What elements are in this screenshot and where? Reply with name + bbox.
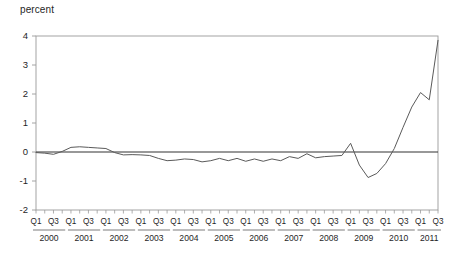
data-series-line (36, 40, 438, 177)
quarter-tick-label: Q3 (118, 217, 129, 226)
quarter-tick-label: Q1 (415, 217, 426, 226)
y-tick-label: 1 (23, 117, 28, 128)
quarter-tick-label: Q3 (153, 217, 164, 226)
year-label: 2011 (420, 233, 439, 243)
y-tick-label: -1 (20, 175, 28, 186)
quarter-tick-label: Q3 (433, 217, 444, 226)
plot-frame (36, 36, 438, 210)
quarter-tick-label: Q3 (48, 217, 59, 226)
quarter-tick-label: Q3 (188, 217, 199, 226)
year-label: 2003 (144, 233, 163, 243)
year-label: 2008 (319, 233, 338, 243)
year-label: 2002 (109, 233, 128, 243)
y-tick-label: 2 (23, 88, 28, 99)
quarter-tick-label: Q3 (258, 217, 269, 226)
line-chart-svg: 43210-1-2 Q1Q3Q1Q3Q1Q3Q1Q3Q1Q3Q1Q3Q1Q3Q1… (0, 0, 449, 271)
year-label: 2007 (284, 233, 303, 243)
y-axis-ticks: 43210-1-2 (20, 30, 36, 215)
quarter-tick-label: Q1 (170, 217, 181, 226)
y-tick-label: 0 (23, 146, 28, 157)
quarter-tick-label: Q3 (83, 217, 94, 226)
quarter-tick-label: Q1 (310, 217, 321, 226)
y-tick-label: -2 (20, 204, 28, 215)
y-tick-label: 4 (23, 30, 28, 41)
year-label: 2005 (214, 233, 233, 243)
quarter-tick-label: Q1 (380, 217, 391, 226)
year-label: 2006 (249, 233, 268, 243)
quarter-tick-label: Q1 (240, 217, 251, 226)
chart-container: percent 43210-1-2 Q1Q3Q1Q3Q1Q3Q1Q3Q1Q3Q1… (0, 0, 449, 271)
quarter-tick-label: Q1 (100, 217, 111, 226)
quarter-tick-label: Q1 (205, 217, 216, 226)
quarter-tick-label: Q3 (363, 217, 374, 226)
quarter-tick-label: Q3 (293, 217, 304, 226)
quarter-tick-label: Q1 (65, 217, 76, 226)
y-tick-label: 3 (23, 59, 28, 70)
quarter-tick-label: Q3 (398, 217, 409, 226)
quarter-tick-label: Q1 (275, 217, 286, 226)
quarter-tick-label: Q1 (135, 217, 146, 226)
year-label: 2010 (389, 233, 408, 243)
x-axis-ticks (36, 210, 438, 214)
year-label: 2004 (179, 233, 198, 243)
quarter-labels: Q1Q3Q1Q3Q1Q3Q1Q3Q1Q3Q1Q3Q1Q3Q1Q3Q1Q3Q1Q3… (31, 217, 444, 226)
year-label: 2009 (354, 233, 373, 243)
year-labels: 2000200120022003200420052006200720082009… (33, 230, 441, 243)
quarter-tick-label: Q3 (328, 217, 339, 226)
quarter-tick-label: Q1 (345, 217, 356, 226)
year-label: 2001 (75, 233, 94, 243)
quarter-tick-label: Q3 (223, 217, 234, 226)
quarter-tick-label: Q1 (31, 217, 42, 226)
year-label: 2000 (40, 233, 59, 243)
